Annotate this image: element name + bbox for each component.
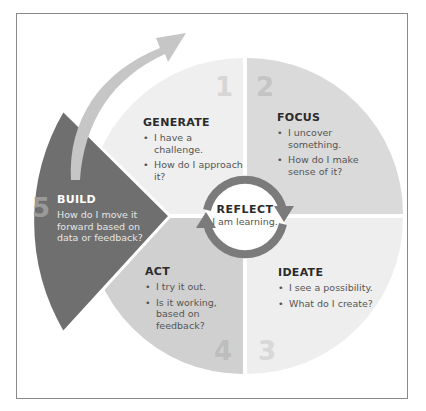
bullet-item: I try it out. xyxy=(145,281,235,293)
reflect-title: REFLECT xyxy=(205,203,285,216)
stage-title: GENERATE xyxy=(143,116,243,129)
stage-description: How do I move it forward based on data o… xyxy=(57,209,145,244)
stage-number-4: 4 xyxy=(214,338,232,364)
stage-title: IDEATE xyxy=(278,266,403,279)
bullet-item: I uncover something. xyxy=(277,127,377,150)
stage-ideate: IDEATE I see a possibility. What do I cr… xyxy=(278,266,403,313)
stage-number-5: 5 xyxy=(32,195,50,221)
bullet-item: I see a possibility. xyxy=(278,282,403,294)
stage-act: ACT I try it out. Is it working, based o… xyxy=(145,265,235,335)
bullet-item: What do I create? xyxy=(278,298,403,310)
bullet-item: I have a challenge. xyxy=(143,132,243,155)
stage-title: ACT xyxy=(145,265,235,278)
stage-title: FOCUS xyxy=(277,111,377,124)
stage-generate: GENERATE I have a challenge. How do I ap… xyxy=(143,116,243,186)
stage-title: BUILD xyxy=(57,193,145,206)
stage-number-2: 2 xyxy=(256,74,274,100)
stage-number-3: 3 xyxy=(258,338,276,364)
reflect-center: REFLECT I am learning. xyxy=(205,203,285,228)
reflect-subtitle: I am learning. xyxy=(205,216,285,228)
bullet-item: How do I approach it? xyxy=(143,159,243,182)
bullet-item: Is it working, based on feedback? xyxy=(145,297,235,332)
stage-build: BUILD How do I move it forward based on … xyxy=(57,193,145,244)
stage-number-1: 1 xyxy=(215,74,233,100)
bullet-item: How do I make sense of it? xyxy=(277,154,377,177)
stage-focus: FOCUS I uncover something. How do I make… xyxy=(277,111,377,181)
